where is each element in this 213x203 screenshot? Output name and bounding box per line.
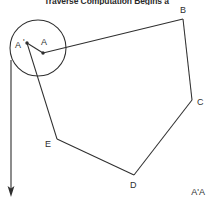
station-point-a — [41, 51, 44, 54]
traverse-leg-b-c — [183, 19, 192, 100]
station-label-d: D — [130, 180, 137, 190]
traverse-leg-c-d — [134, 100, 192, 175]
bottom-right-caption: A'A — [191, 187, 205, 197]
station-label-a-prime: A — [15, 40, 21, 50]
traverse-leg-e-aprime — [27, 43, 57, 139]
station-label-a: A — [41, 37, 47, 47]
diagram-canvas: A ' A B C D E — [0, 0, 213, 203]
traverse-leg-a-b — [43, 19, 183, 53]
station-label-a-prime-tick: ' — [23, 37, 25, 47]
station-label-e: E — [45, 139, 51, 149]
station-point-a-prime — [25, 41, 28, 44]
figure-title: Traverse Computation Begins a — [0, 0, 213, 5]
traverse-leg-d-e — [57, 139, 134, 175]
traverse-diagram: Traverse Computation Begins a A ' A B C — [0, 0, 213, 203]
meridian-arrow — [8, 60, 15, 197]
station-label-b: B — [180, 5, 186, 15]
station-label-c: C — [197, 97, 204, 107]
